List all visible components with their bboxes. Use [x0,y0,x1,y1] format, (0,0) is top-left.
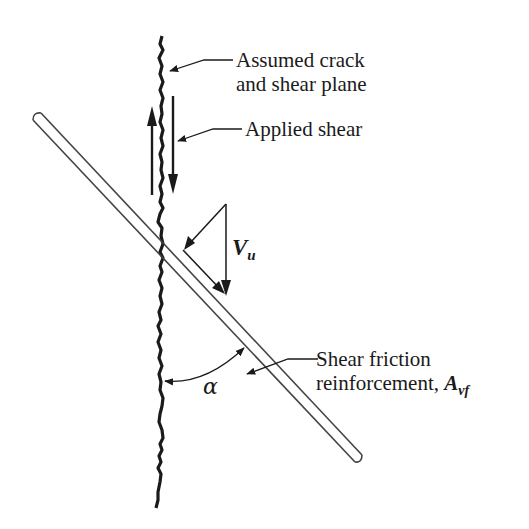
crack-label-line1: Assumed crack [236,48,365,72]
shear-friction-diagram: Assumed crack and shear plane Applied sh… [0,0,529,529]
applied-shear-label: Applied shear [245,117,362,141]
crack-line [156,36,163,508]
leader-lines [170,60,318,374]
force-symbol: Vu [232,235,256,263]
reinforcement-label-line1: Shear friction [316,347,431,371]
reinforcement-label-line2: reinforcement, Avf [316,371,471,398]
reinforcement-bar [33,113,362,462]
angle-alpha-label: α [203,374,218,399]
crack-label-line2: and shear plane [236,72,367,96]
force-triangle [183,204,231,296]
